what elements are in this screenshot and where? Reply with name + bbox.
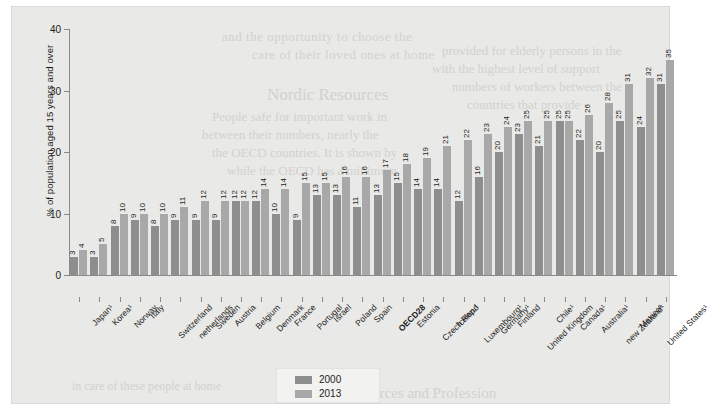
bar-group[interactable]: 1623 (475, 29, 493, 275)
x-axis-tick (342, 297, 343, 302)
bar-2000[interactable] (353, 207, 361, 275)
bar-2013[interactable] (180, 207, 188, 275)
bar-value-label: 9 (170, 213, 178, 217)
bar-group[interactable]: 2432 (637, 29, 655, 275)
bar-2000[interactable] (374, 195, 382, 275)
bar-group[interactable]: 1518 (394, 29, 412, 275)
legend-item-2013[interactable]: 2013 (295, 388, 379, 399)
bar-group[interactable]: 910 (131, 29, 149, 275)
bar-group[interactable]: 1014 (272, 29, 290, 275)
bar-group[interactable]: 1315 (313, 29, 331, 275)
bar-group[interactable]: 1116 (353, 29, 371, 275)
bar-value-label: 5 (98, 238, 106, 242)
x-axis-category-label: Korea¹ (111, 303, 135, 327)
bar-2000[interactable] (232, 201, 240, 275)
bar-2000[interactable] (596, 152, 604, 275)
bar-2000[interactable] (475, 177, 483, 275)
bar-2000[interactable] (616, 121, 624, 275)
bar-2013[interactable] (342, 177, 350, 275)
bar-2013[interactable] (646, 78, 654, 275)
bar-group[interactable]: 2531 (616, 29, 634, 275)
bar-2013[interactable] (302, 183, 310, 275)
bar-group[interactable]: 915 (293, 29, 311, 275)
bar-2013[interactable] (201, 201, 209, 275)
bar-group[interactable]: 3135 (657, 29, 675, 275)
bar-2000[interactable] (455, 201, 463, 275)
bar-2000[interactable] (313, 195, 321, 275)
bar-2000[interactable] (151, 226, 159, 275)
bar-2013[interactable] (281, 189, 289, 275)
bar-2013[interactable] (625, 84, 633, 275)
bar-2013[interactable] (160, 214, 168, 276)
bar-2013[interactable] (565, 121, 573, 275)
bar-2000[interactable] (111, 226, 119, 275)
bar-2000[interactable] (637, 127, 645, 275)
bar-2000[interactable] (556, 121, 564, 275)
bar-2000[interactable] (495, 152, 503, 275)
bar-group[interactable]: 810 (151, 29, 169, 275)
bar-2000[interactable] (171, 220, 179, 275)
bar-2013[interactable] (423, 158, 431, 275)
x-axis-tick (565, 297, 566, 302)
bar-2000[interactable] (414, 189, 422, 275)
bar-group[interactable]: 911 (171, 29, 189, 275)
bar-2013[interactable] (79, 250, 87, 275)
bar-group[interactable]: 2028 (596, 29, 614, 275)
bar-2013[interactable] (241, 201, 249, 275)
bar-2013[interactable] (464, 140, 472, 275)
bar-2013[interactable] (322, 183, 330, 275)
x-axis-tick (99, 297, 100, 302)
bar-2013[interactable] (544, 121, 552, 275)
bar-group[interactable]: 1222 (455, 29, 473, 275)
bar-2000[interactable] (252, 201, 260, 275)
bar-2000[interactable] (535, 146, 543, 275)
bar-2013[interactable] (99, 244, 107, 275)
bar-2000[interactable] (515, 134, 523, 275)
bar-2013[interactable] (666, 60, 674, 275)
bar-2000[interactable] (434, 189, 442, 275)
bar-value-label: 19 (422, 147, 430, 156)
bar-group[interactable]: 2024 (495, 29, 513, 275)
bar-2000[interactable] (272, 214, 280, 276)
bar-2013[interactable] (585, 115, 593, 275)
bar-group[interactable]: 1419 (414, 29, 432, 275)
bar-2000[interactable] (333, 195, 341, 275)
bar-2013[interactable] (403, 164, 411, 275)
bar-group[interactable]: 2325 (515, 29, 533, 275)
bar-group[interactable]: 1421 (434, 29, 452, 275)
bar-2000[interactable] (576, 140, 584, 275)
bar-2000[interactable] (293, 220, 301, 275)
bar-group[interactable]: 2226 (576, 29, 594, 275)
bar-2013[interactable] (443, 146, 451, 275)
bar-2000[interactable] (70, 257, 78, 275)
bar-2013[interactable] (484, 134, 492, 275)
bar-2000[interactable] (657, 84, 665, 275)
bar-2013[interactable] (221, 201, 229, 275)
bar-group[interactable]: 2525 (556, 29, 574, 275)
bar-group[interactable]: 912 (192, 29, 210, 275)
bar-2013[interactable] (524, 121, 532, 275)
bar-group[interactable]: 1317 (374, 29, 392, 275)
bar-2000[interactable] (212, 220, 220, 275)
bar-2013[interactable] (504, 127, 512, 275)
bar-2013[interactable] (261, 189, 269, 275)
bar-group[interactable]: 1316 (333, 29, 351, 275)
bar-2013[interactable] (605, 103, 613, 275)
bar-2000[interactable] (90, 257, 98, 275)
bar-2013[interactable] (140, 214, 148, 276)
legend-item-2000[interactable]: 2000 (295, 374, 379, 385)
bar-group[interactable]: 810 (111, 29, 129, 275)
bar-group[interactable]: 34 (70, 29, 88, 275)
bar-group[interactable]: 35 (90, 29, 108, 275)
y-axis-tick (64, 152, 69, 153)
bar-2013[interactable] (383, 170, 391, 275)
bar-group[interactable]: 1214 (252, 29, 270, 275)
bar-2000[interactable] (131, 220, 139, 275)
bar-2000[interactable] (394, 183, 402, 275)
bar-group[interactable]: 2125 (535, 29, 553, 275)
bar-2013[interactable] (120, 214, 128, 276)
bar-group[interactable]: 1212 (232, 29, 250, 275)
bar-2000[interactable] (192, 220, 200, 275)
bar-group[interactable]: 912 (212, 29, 230, 275)
bar-2013[interactable] (362, 177, 370, 275)
